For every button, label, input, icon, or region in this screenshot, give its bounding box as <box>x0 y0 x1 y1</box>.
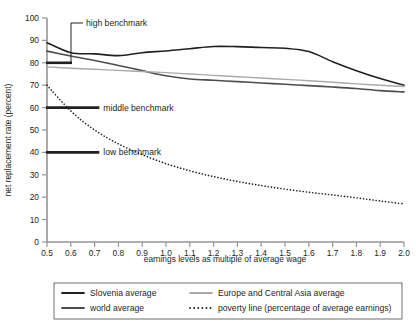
y-tick-label: 40 <box>30 147 40 157</box>
x-tick-label: 1.7 <box>327 248 339 258</box>
y-tick-label: 90 <box>30 35 40 45</box>
chart-background <box>0 0 416 325</box>
x-tick-label: 0.8 <box>113 248 125 258</box>
y-tick-label: 100 <box>25 13 39 23</box>
x-tick-label: 1.9 <box>374 248 386 258</box>
x-tick-label: 2.0 <box>398 248 410 258</box>
y-tick-label: 30 <box>30 170 40 180</box>
legend-item-europe-and-central-asia-average-label: Europe and Central Asia average <box>218 288 345 298</box>
y-tick-label: 70 <box>30 80 40 90</box>
x-tick-label: 0.7 <box>89 248 101 258</box>
legend-item-world-average-label: world average <box>89 303 144 313</box>
middle-benchmark-label: middle benchmark <box>103 103 174 113</box>
y-tick-label: 20 <box>30 192 40 202</box>
net-replacement-rate-line-chart: 0102030405060708090100 0.50.60.70.80.91.… <box>0 0 416 325</box>
x-tick-label: 0.6 <box>65 248 77 258</box>
y-tick-label: 0 <box>34 237 39 247</box>
low-benchmark-label: low benchmark <box>103 147 161 157</box>
legend-item-slovenia-average-label: Slovenia average <box>90 288 157 298</box>
y-axis-title: net replacement rate (percent) <box>3 83 13 196</box>
y-tick-label: 60 <box>30 103 40 113</box>
y-tick-label: 10 <box>30 215 40 225</box>
y-tick-label: 80 <box>30 58 40 68</box>
y-tick-label: 50 <box>30 125 40 135</box>
chart-figure: 0102030405060708090100 0.50.60.70.80.91.… <box>0 0 416 325</box>
x-tick-label: 0.5 <box>41 248 53 258</box>
legend-item-poverty-line-percentage-of-average-earnings-label: poverty line (percentage of average earn… <box>218 303 392 313</box>
x-axis-title: earnings levels as multiple of average w… <box>144 254 307 264</box>
x-tick-label: 1.8 <box>351 248 363 258</box>
high-benchmark-label: high benchmark <box>86 18 148 28</box>
